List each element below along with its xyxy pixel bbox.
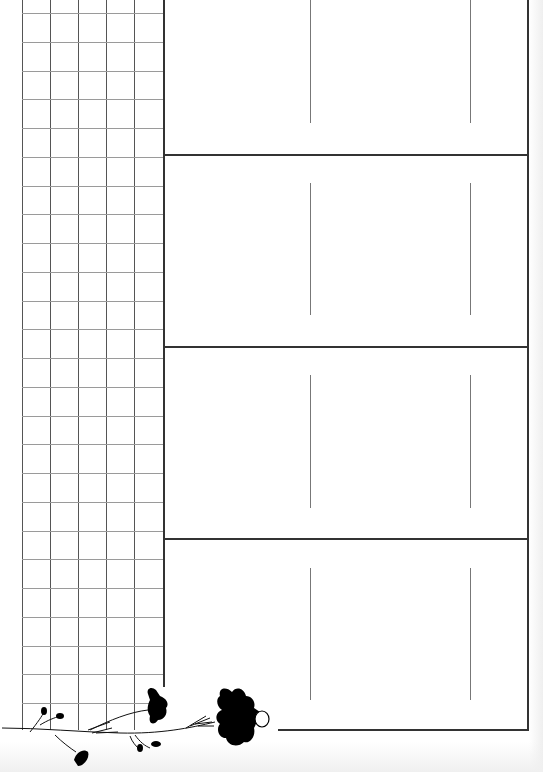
- page-edge-shadow: [529, 0, 543, 772]
- section-column-line: [470, 0, 471, 123]
- section-column-line: [310, 183, 311, 315]
- grid-horizontal-line: [22, 13, 163, 14]
- frame-left-border: [163, 0, 165, 687]
- grid-horizontal-line: [22, 128, 163, 129]
- grid-column: [22, 0, 163, 730]
- grid-horizontal-line: [22, 157, 163, 158]
- grid-horizontal-line: [22, 329, 163, 330]
- grid-horizontal-line: [22, 617, 163, 618]
- section-divider: [163, 154, 528, 156]
- section-column-line: [470, 183, 471, 315]
- grid-vertical-line: [22, 0, 23, 730]
- grid-horizontal-line: [22, 186, 163, 187]
- grid-horizontal-line: [22, 214, 163, 215]
- grid-horizontal-line: [22, 42, 163, 43]
- section-divider: [163, 538, 528, 540]
- grid-horizontal-line: [22, 531, 163, 532]
- grid-horizontal-line: [22, 358, 163, 359]
- section-divider: [163, 346, 528, 348]
- grid-horizontal-line: [22, 444, 163, 445]
- section-column-line: [310, 0, 311, 123]
- grid-horizontal-line: [22, 301, 163, 302]
- grid-vertical-line: [78, 0, 79, 730]
- grid-horizontal-line: [22, 588, 163, 589]
- grid-horizontal-line: [22, 473, 163, 474]
- grid-horizontal-line: [22, 646, 163, 647]
- grid-horizontal-line: [22, 387, 163, 388]
- frame-bottom-border: [278, 729, 528, 731]
- grid-horizontal-line: [22, 243, 163, 244]
- grid-vertical-line: [50, 0, 51, 730]
- grid-vertical-line: [134, 0, 135, 730]
- grid-horizontal-line: [22, 674, 163, 675]
- grid-horizontal-line: [22, 559, 163, 560]
- frame-right-border: [527, 0, 529, 731]
- section-column-line: [310, 375, 311, 508]
- section-column-line: [470, 375, 471, 508]
- section-column-line: [470, 568, 471, 700]
- grid-horizontal-line: [22, 99, 163, 100]
- grid-vertical-line: [106, 0, 107, 730]
- grid-horizontal-line: [22, 502, 163, 503]
- grid-horizontal-line: [22, 71, 163, 72]
- grid-horizontal-line: [22, 272, 163, 273]
- grid-horizontal-line: [22, 416, 163, 417]
- flower-vine-icon: [0, 680, 280, 772]
- section-column-line: [310, 568, 311, 700]
